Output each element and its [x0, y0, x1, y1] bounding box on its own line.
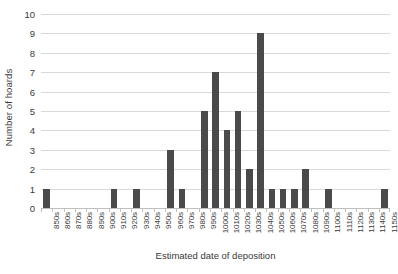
y-axis-tick-labels: 109876543210: [18, 14, 38, 208]
bar-slot: [86, 14, 97, 208]
x-axis-tick-label: 1060s: [278, 212, 289, 246]
x-axis-tick-label: 1090s: [311, 212, 322, 246]
x-axis-title: Estimated date of deposition: [41, 250, 390, 261]
x-axis-tick-label: 1110s: [334, 212, 345, 246]
x-axis-tick-label: 970s: [176, 212, 187, 246]
x-axis-tick-label-text: 1150s: [389, 212, 398, 233]
y-axis-tick-label: 4: [30, 125, 35, 136]
y-axis-tick-label: 10: [24, 9, 35, 20]
bar[interactable]: [246, 169, 253, 208]
x-axis-tick-label: 890s: [86, 212, 97, 246]
x-axis-tick-label: 1050s: [266, 212, 277, 246]
x-axis-tick-label: 1020s: [233, 212, 244, 246]
bar-slot: [154, 14, 165, 208]
x-axis-tick-label: 910s: [109, 212, 120, 246]
x-axis-tick-label: 1140s: [368, 212, 379, 246]
bar-slot: [109, 14, 120, 208]
bar[interactable]: [257, 33, 264, 208]
bar-slot: [165, 14, 176, 208]
bar-slot: [300, 14, 311, 208]
x-axis-tick-label: 1080s: [300, 212, 311, 246]
bar-slot: [244, 14, 255, 208]
x-axis-tick-label: 1030s: [244, 212, 255, 246]
bar[interactable]: [280, 189, 287, 208]
bar-slot: [142, 14, 153, 208]
bar[interactable]: [43, 189, 50, 208]
x-axis-tick-label: 1040s: [255, 212, 266, 246]
bar-slot: [199, 14, 210, 208]
bar[interactable]: [325, 189, 332, 208]
bar-slot: [75, 14, 86, 208]
bar[interactable]: [111, 189, 118, 208]
x-axis-tick-label: 860s: [52, 212, 63, 246]
bar-slot: [233, 14, 244, 208]
bar[interactable]: [291, 189, 298, 208]
bar[interactable]: [179, 189, 186, 208]
bar-slot: [255, 14, 266, 208]
bar-slot: [210, 14, 221, 208]
x-axis-tick-label: 980s: [187, 212, 198, 246]
bar-slot: [221, 14, 232, 208]
x-axis-tick-label: 880s: [75, 212, 86, 246]
bar-slot: [278, 14, 289, 208]
x-axis-tick-label: 930s: [131, 212, 142, 246]
x-axis-tick-label: 990s: [199, 212, 210, 246]
y-axis-tick-label: 5: [30, 106, 35, 117]
x-axis-tick-label: 1000s: [210, 212, 221, 246]
x-axis-tick-label: 1010s: [221, 212, 232, 246]
bar-slot: [368, 14, 379, 208]
y-axis-tick-label: 6: [30, 86, 35, 97]
plot-area: [41, 14, 390, 208]
bar-slot: [97, 14, 108, 208]
bar-slot: [41, 14, 52, 208]
bar-slot: [131, 14, 142, 208]
bar-slot: [266, 14, 277, 208]
bar-slot: [345, 14, 356, 208]
x-axis-tick-label: 900s: [97, 212, 108, 246]
y-axis-tick-label: 3: [30, 144, 35, 155]
x-axis-tick-label: 920s: [120, 212, 131, 246]
bar[interactable]: [381, 189, 388, 208]
bar[interactable]: [235, 111, 242, 208]
bar[interactable]: [167, 150, 174, 208]
x-axis-tick-label: 850s: [41, 212, 52, 246]
y-axis-title: Number of hoards: [0, 0, 18, 214]
x-axis-tick-label: 1120s: [345, 212, 356, 246]
y-axis-tick-label: 2: [30, 164, 35, 175]
bar-slot: [187, 14, 198, 208]
bar-slot: [356, 14, 367, 208]
bars-layer: [41, 14, 390, 208]
bar-slot: [176, 14, 187, 208]
x-axis-tick-labels: 850s860s870s880s890s900s910s920s930s940s…: [41, 212, 390, 246]
bar-slot: [52, 14, 63, 208]
bar-slot: [311, 14, 322, 208]
bar-slot: [64, 14, 75, 208]
bar[interactable]: [133, 189, 140, 208]
x-axis-tick-label: 1100s: [323, 212, 334, 246]
x-axis-tick-label: 1130s: [356, 212, 367, 246]
bar-slot: [323, 14, 334, 208]
x-axis-tick-label: 870s: [64, 212, 75, 246]
bar-slot: [334, 14, 345, 208]
y-axis-tick-label: 1: [30, 183, 35, 194]
bar-slot: [289, 14, 300, 208]
x-axis-tick-label: 960s: [165, 212, 176, 246]
y-axis-tick-label: 8: [30, 47, 35, 58]
bar-slot: [379, 14, 390, 208]
x-axis-tick-label: 940s: [142, 212, 153, 246]
bar[interactable]: [212, 72, 219, 208]
bar[interactable]: [224, 130, 231, 208]
y-axis-tick-label: 7: [30, 67, 35, 78]
x-axis-tick-label: 1070s: [289, 212, 300, 246]
bar[interactable]: [302, 169, 309, 208]
y-axis-tick-label: 9: [30, 28, 35, 39]
y-axis-tick-label: 0: [30, 203, 35, 214]
bar[interactable]: [269, 189, 276, 208]
x-axis-tick-label: 950s: [154, 212, 165, 246]
y-axis-title-label: Number of hoards: [4, 68, 15, 146]
bar-slot: [120, 14, 131, 208]
x-axis-tick-label: 1150s: [379, 212, 390, 246]
bar[interactable]: [201, 111, 208, 208]
